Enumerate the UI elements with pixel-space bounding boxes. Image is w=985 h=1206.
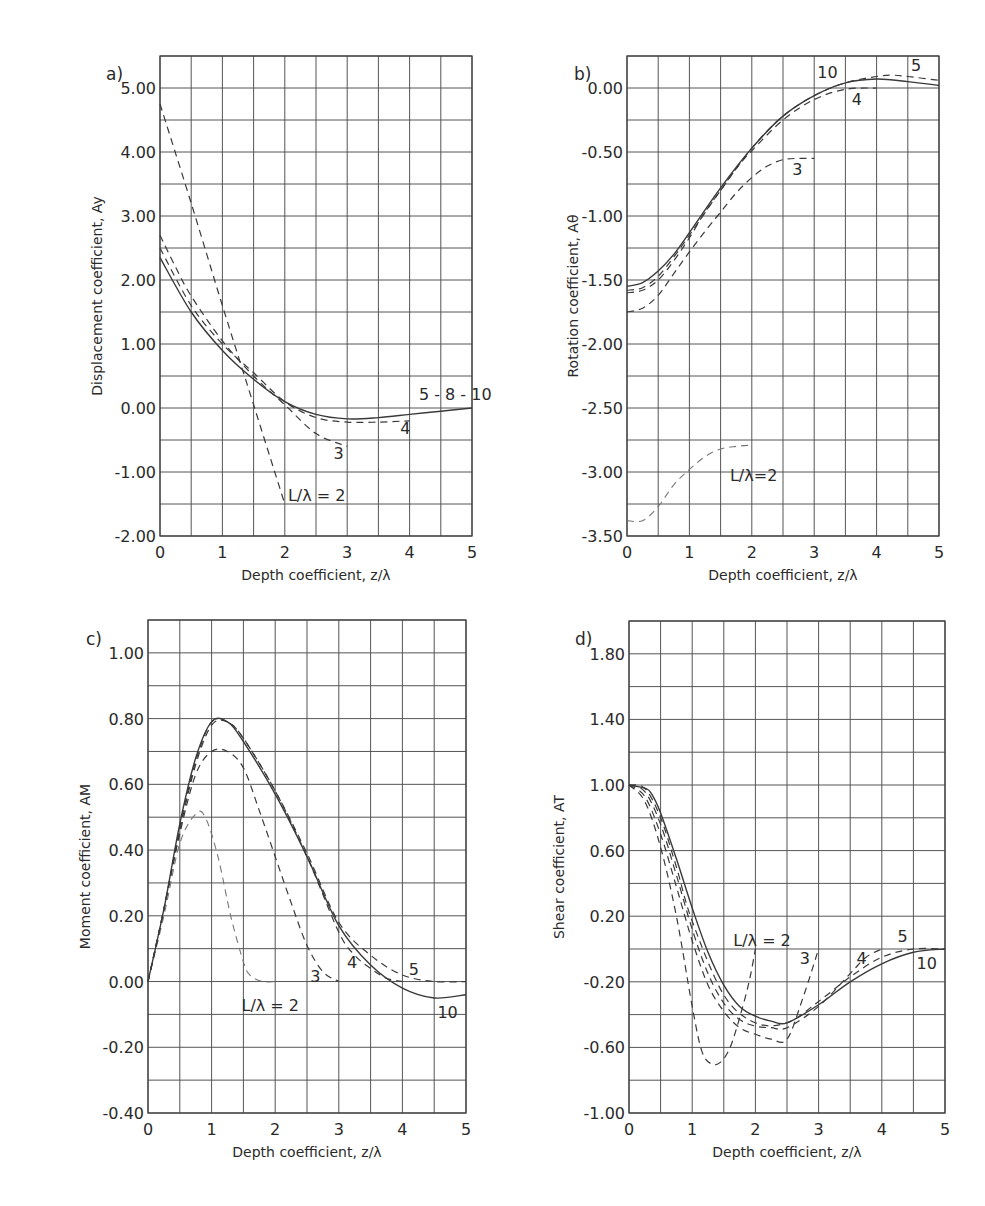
y-tick-label: -0.20 — [103, 1038, 144, 1057]
panel-label: d) — [575, 629, 592, 649]
panel-label: b) — [574, 64, 591, 84]
curve-annotation: 3 — [792, 160, 802, 179]
y-tick-label: -2.00 — [115, 527, 156, 546]
y-tick-label: 0.40 — [108, 841, 144, 860]
y-tick-label: -2.50 — [582, 399, 623, 418]
y-axis-ticks: 0.00-0.50-1.00-1.50-2.00-2.50-3.00-3.50 — [582, 79, 623, 546]
y-tick-label: 0.80 — [108, 710, 144, 729]
curve-annotation: L/λ = 2 — [241, 996, 299, 1015]
curve-annotation: 5 — [911, 56, 921, 75]
y-tick-label: 0.00 — [120, 399, 156, 418]
y-tick-label: -2.00 — [582, 335, 623, 354]
x-tick-label: 2 — [750, 1120, 760, 1139]
y-axis-ticks: 1.000.800.600.400.200.00-0.20-0.40 — [103, 644, 144, 1123]
figure-container: 5.004.003.002.001.000.00-1.00-2.00012345… — [0, 0, 985, 1206]
y-tick-label: 1.00 — [589, 776, 625, 795]
x-tick-label: 5 — [934, 543, 944, 562]
curve-annotations: 5 - 8 - 1043L/λ = 2 — [288, 385, 492, 504]
curve-annotation: 5 — [898, 927, 908, 946]
y-tick-label: -0.40 — [103, 1104, 144, 1123]
y-tick-label: -1.50 — [582, 271, 623, 290]
y-tick-label: -1.00 — [584, 1104, 625, 1123]
x-tick-label: 3 — [342, 543, 352, 562]
x-tick-label: 4 — [877, 1120, 887, 1139]
panel-label: a) — [106, 64, 123, 84]
y-tick-label: 0.20 — [108, 907, 144, 926]
y-tick-label: 4.00 — [120, 143, 156, 162]
chart-panel-d: 1.801.401.000.600.20-0.20-0.60-1.0001234… — [551, 621, 950, 1160]
y-tick-label: 0.00 — [587, 79, 623, 98]
x-tick-label: 5 — [461, 1120, 471, 1139]
y-axis-label: Displacement coefficient, Ay — [89, 196, 105, 395]
y-tick-label: 1.80 — [589, 645, 625, 664]
x-tick-label: 0 — [624, 1120, 634, 1139]
y-axis-label: Rotation coefficient, Aθ — [565, 214, 581, 377]
curve-annotation: 3 — [310, 967, 320, 986]
curve-annotation: 5 - 8 - 10 — [419, 385, 492, 404]
x-tick-label: 5 — [467, 543, 477, 562]
x-tick-label: 0 — [155, 543, 165, 562]
x-tick-label: 1 — [687, 1120, 697, 1139]
curve-annotation: 10 — [437, 1003, 457, 1022]
curve-annotation: 4 — [400, 419, 410, 438]
y-tick-label: -3.50 — [582, 527, 623, 546]
figure-canvas: 5.004.003.002.001.000.00-1.00-2.00012345… — [0, 0, 985, 1206]
y-tick-label: 2.00 — [120, 271, 156, 290]
x-tick-label: 4 — [405, 543, 415, 562]
curve-annotation: L/λ=2 — [730, 466, 777, 485]
grid-lines — [627, 56, 939, 536]
y-axis-label: Shear coefficient, AT — [551, 795, 567, 940]
curve-annotations: L/λ = 234510 — [241, 953, 457, 1021]
x-tick-label: 4 — [397, 1120, 407, 1139]
y-tick-label: -0.60 — [584, 1038, 625, 1057]
curve-annotation: 4 — [347, 953, 357, 972]
grid-lines — [160, 56, 472, 536]
curve-annotation: 10 — [817, 63, 837, 82]
y-tick-label: 1.00 — [108, 644, 144, 663]
x-axis-label: Depth coefficient, z/λ — [712, 1144, 861, 1160]
y-tick-label: 0.20 — [589, 907, 625, 926]
curve-annotation: L/λ = 2 — [288, 486, 346, 505]
y-axis-ticks: 1.801.401.000.600.20-0.20-0.60-1.00 — [584, 645, 625, 1123]
y-tick-label: 0.00 — [108, 973, 144, 992]
curve-annotation: 4 — [857, 949, 867, 968]
x-tick-label: 4 — [872, 543, 882, 562]
x-axis-ticks: 012345 — [143, 1120, 471, 1139]
y-tick-label: 3.00 — [120, 207, 156, 226]
x-tick-label: 5 — [940, 1120, 950, 1139]
x-tick-label: 0 — [622, 543, 632, 562]
x-tick-label: 1 — [217, 543, 227, 562]
chart-panel-a: 5.004.003.002.001.000.00-1.00-2.00012345… — [89, 56, 492, 583]
curve-annotation: 3 — [800, 949, 810, 968]
x-tick-label: 0 — [143, 1120, 153, 1139]
curve-annotations: 10543L/λ=2 — [730, 56, 921, 485]
y-tick-label: 1.00 — [120, 335, 156, 354]
x-axis-label: Depth coefficient, z/λ — [241, 567, 390, 583]
x-tick-label: 1 — [207, 1120, 217, 1139]
chart-panel-c: 1.000.800.600.400.200.00-0.20-0.40012345… — [77, 620, 471, 1160]
x-tick-label: 3 — [809, 543, 819, 562]
y-tick-label: 0.60 — [108, 775, 144, 794]
chart-panel-b: 0.00-0.50-1.00-1.50-2.00-2.50-3.00-3.500… — [565, 56, 944, 583]
y-axis-ticks: 5.004.003.002.001.000.00-1.00-2.00 — [115, 79, 156, 546]
y-tick-label: -1.00 — [582, 207, 623, 226]
y-tick-label: 0.60 — [589, 842, 625, 861]
curve-annotation: L/λ = 2 — [733, 931, 791, 950]
x-axis-ticks: 012345 — [155, 543, 477, 562]
x-axis-label: Depth coefficient, z/λ — [232, 1144, 381, 1160]
y-tick-label: 5.00 — [120, 79, 156, 98]
x-axis-ticks: 012345 — [622, 543, 944, 562]
x-tick-label: 2 — [270, 1120, 280, 1139]
x-axis-ticks: 012345 — [624, 1120, 950, 1139]
x-tick-label: 2 — [280, 543, 290, 562]
curve-annotation: 3 — [333, 444, 343, 463]
y-tick-label: -3.00 — [582, 463, 623, 482]
y-axis-label: Moment coefficient, AM — [77, 784, 93, 949]
x-tick-label: 3 — [814, 1120, 824, 1139]
x-tick-label: 2 — [747, 543, 757, 562]
grid-lines — [148, 620, 466, 1113]
x-tick-label: 3 — [334, 1120, 344, 1139]
x-axis-label: Depth coefficient, z/λ — [708, 567, 857, 583]
y-tick-label: -0.50 — [582, 143, 623, 162]
curve-annotation: 10 — [917, 954, 937, 973]
